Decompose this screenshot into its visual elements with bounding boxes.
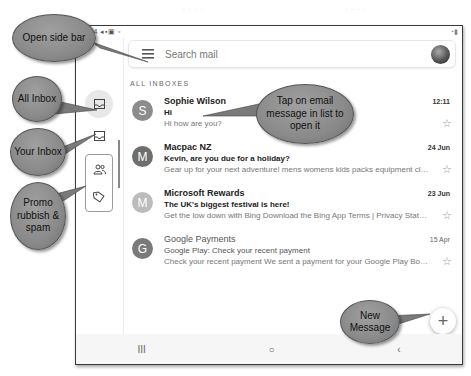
email-subject: The UK's biggest festival is here!	[164, 200, 290, 209]
navigation-rail	[76, 38, 124, 334]
faded-text: · · · ·	[345, 6, 367, 13]
tag-icon	[93, 191, 105, 203]
android-nav-bar: III ○ ‹	[76, 334, 462, 364]
star-icon[interactable]: ☆	[442, 209, 452, 222]
star-icon[interactable]: ☆	[442, 255, 452, 268]
callout-your-inbox: Your Inbox	[10, 128, 66, 176]
email-date: 12:11	[432, 98, 450, 105]
email-snippet: Check your recent payment We sent a paym…	[164, 257, 430, 266]
section-label: ALL INBOXES	[130, 80, 190, 87]
email-snippet: Get the low down with Bing Download the …	[164, 211, 430, 220]
inbox-icon	[94, 99, 105, 109]
recents-button[interactable]: III	[137, 344, 145, 355]
email-row[interactable]: M Microsoft Rewards The UK's biggest fes…	[124, 182, 458, 228]
sender-name: Macpac NZ	[164, 142, 212, 152]
open-sidebar-button[interactable]	[137, 49, 159, 59]
email-date: 24 Jun	[428, 144, 450, 151]
compose-button[interactable]: +	[430, 308, 456, 334]
sender-name: Google Payments	[164, 234, 236, 244]
sender-name: Microsoft Rewards	[164, 188, 245, 198]
rail-item-promotions[interactable]	[86, 183, 112, 211]
star-icon[interactable]: ☆	[442, 163, 452, 176]
callout-promo: Promo rubbish & spam	[10, 182, 66, 250]
callout-all-inbox: All Inbox	[12, 76, 62, 122]
rail-category-group	[85, 154, 113, 212]
home-button[interactable]: ○	[268, 344, 274, 355]
people-icon	[93, 164, 106, 175]
email-subject: Kevin, are you due for a holiday?	[164, 154, 290, 163]
scrollbar[interactable]	[118, 140, 120, 188]
gmail-tablet-screen: 12:34 ◂▪▣ ▫ ◔▮ Search mail ALL INBOXES S	[75, 25, 463, 365]
sender-avatar: M	[132, 146, 153, 167]
email-subject: Google Play: Check your recent payment	[164, 246, 310, 255]
account-avatar[interactable]	[431, 45, 450, 64]
status-bar: 12:34 ◂▪▣ ▫ ◔▮	[78, 28, 458, 38]
callout-open-sidebar: Open side bar	[12, 14, 96, 62]
status-right: ◔▮	[450, 28, 458, 36]
sender-avatar: G	[132, 238, 153, 259]
search-input[interactable]: Search mail	[165, 49, 431, 60]
hamburger-menu-icon	[142, 49, 154, 59]
rail-item-all-inboxes[interactable]	[85, 90, 113, 118]
inbox-icon	[94, 131, 105, 141]
callout-new-message: New Message	[340, 300, 400, 344]
sender-avatar: S	[132, 100, 153, 121]
email-snippet: Gear up for your next adventure! mens wo…	[164, 165, 430, 174]
star-icon[interactable]: ☆	[442, 117, 452, 130]
sender-name: Sophie Wilson	[164, 96, 226, 106]
email-row[interactable]: G Google Payments Google Play: Check you…	[124, 228, 458, 274]
email-date: 23 Jun	[428, 190, 450, 197]
email-date: 15 Apr	[430, 236, 450, 243]
email-subject: Hi	[164, 108, 172, 117]
callout-tap-email: Tap on email message in list to open it	[256, 84, 354, 144]
search-bar[interactable]: Search mail	[128, 40, 456, 68]
rail-item-social[interactable]	[86, 155, 112, 183]
back-button[interactable]: ‹	[397, 344, 400, 355]
sender-avatar: M	[132, 192, 153, 213]
rail-item-your-inbox[interactable]	[85, 122, 113, 150]
faded-text: · · · ·	[182, 6, 204, 13]
